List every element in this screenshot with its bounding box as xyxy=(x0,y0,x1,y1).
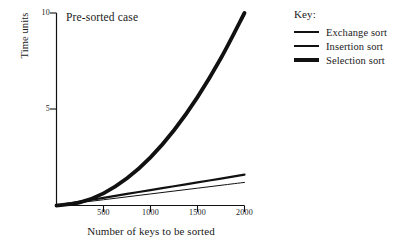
legend-item-exchange-sort: Exchange sort xyxy=(294,25,414,39)
x-axis-label: Number of keys to be sorted xyxy=(56,225,246,237)
chart-figure: Time units Number of keys to be sorted P… xyxy=(0,0,417,246)
legend-title: Key: xyxy=(294,8,414,20)
legend-item-insertion-sort: Insertion sort xyxy=(294,39,414,53)
x-tick-label-2000: 2000 xyxy=(225,208,265,217)
series-line-exchange-sort xyxy=(57,182,245,205)
x-tick-label-500: 500 xyxy=(84,208,124,217)
y-tick-label-10: 10 xyxy=(30,8,50,17)
chart-title: Pre-sorted case xyxy=(66,11,138,23)
y-tick-label-5: 5 xyxy=(30,104,50,113)
legend-label-exchange-sort: Exchange sort xyxy=(326,27,387,38)
series-line-insertion-sort xyxy=(57,175,245,206)
legend-swatch-selection-sort xyxy=(294,58,326,62)
series-line-selection-sort xyxy=(57,13,245,206)
x-tick-label-1500: 1500 xyxy=(178,208,218,217)
legend-item-selection-sort: Selection sort xyxy=(294,53,414,67)
y-axis-label: Time units xyxy=(19,0,30,74)
x-tick-label-1000: 1000 xyxy=(131,208,171,217)
legend-swatch-exchange-sort xyxy=(294,31,326,32)
legend-label-insertion-sort: Insertion sort xyxy=(326,41,383,52)
legend-swatch-insertion-sort xyxy=(294,45,326,48)
legend-label-selection-sort: Selection sort xyxy=(326,55,385,66)
chart-legend: Key: Exchange sort Insertion sort Select… xyxy=(294,8,414,67)
